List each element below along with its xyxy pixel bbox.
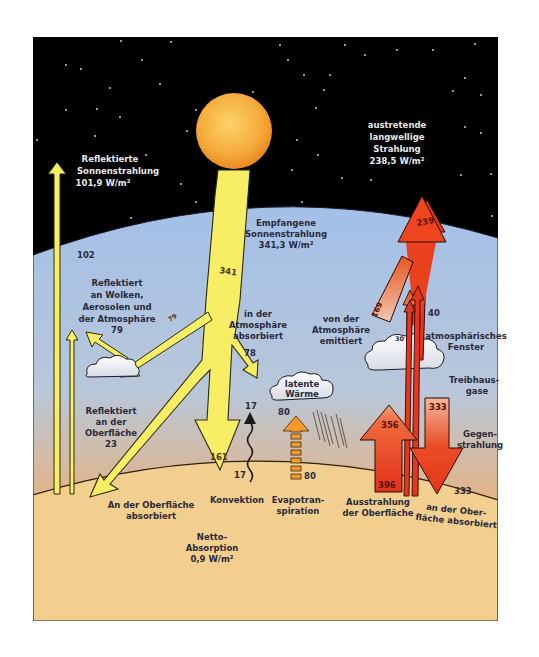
label-value: 238,5 W/m²: [370, 156, 425, 166]
label-text: An der Oberfläche: [108, 500, 195, 510]
label-text: absorbiert: [233, 331, 283, 341]
earth-energy-budget-diagram: Reflektierte Sonnenstrahlung 101,9 W/m² …: [0, 0, 539, 657]
label-text: Reflektierte: [82, 154, 139, 164]
label-text: Reflektiert: [91, 278, 142, 288]
label-text: emittiert: [320, 336, 363, 346]
label-value: 79: [111, 325, 123, 335]
label-value: 341,3 W/m²: [259, 240, 314, 250]
label-text: Fenster: [448, 342, 485, 352]
label-text: atmosphärisches: [425, 331, 507, 341]
flow-value-absorbed-atmosphere: 78: [244, 348, 256, 358]
label-text: absorbiert: [126, 511, 176, 521]
flow-value-back-radiation-top: 333: [429, 402, 447, 412]
flow-value-convection-top: 17: [245, 401, 257, 411]
label-latent-heat: latente Wärme: [285, 379, 320, 399]
label-text: Netto-: [197, 532, 228, 542]
flow-value-emitted-clouds: 30: [395, 335, 405, 343]
label-text: spiration: [277, 506, 320, 516]
sun-icon: [196, 93, 272, 169]
label-text: von der: [323, 314, 360, 324]
label-text: langwellige: [370, 132, 425, 142]
label-text: Oberfläche: [85, 428, 137, 438]
label-text: Sonnenstrahlung: [77, 166, 159, 176]
flow-value-window: 40: [428, 308, 440, 318]
flow-value-evap-bottom: 80: [304, 471, 316, 481]
label-text: der Oberfläche: [342, 508, 413, 518]
label-text: Empfangene: [256, 218, 316, 228]
flow-value-reflected-total: 102: [77, 250, 95, 260]
label-text: Gegen-: [463, 429, 498, 439]
flow-value-absorbed-surface: 161: [210, 452, 228, 462]
label-evapotranspiration: Evapotran- spiration: [272, 495, 325, 516]
label-text: Atmosphäre: [229, 320, 287, 330]
label-text: austretende: [368, 120, 427, 130]
label-text: Atmosphäre: [312, 325, 370, 335]
label-text: in der: [244, 309, 273, 319]
flow-value-evap-top: 80: [278, 407, 290, 417]
label-text: Reflektiert: [85, 406, 136, 416]
label-text: an der: [96, 417, 128, 427]
label-back-radiation: Gegen- strahlung: [457, 429, 503, 450]
label-text: der Atmosphäre: [78, 314, 155, 324]
label-value: 0,9 W/m²: [190, 554, 233, 564]
flow-value-back-radiation-bottom: 333: [454, 486, 472, 496]
label-text: Konvektion: [210, 495, 264, 505]
label-value: 23: [105, 439, 117, 449]
label-text: an Wolken,: [90, 290, 143, 300]
label-surface-radiation: Ausstrahlung der Oberfläche: [342, 497, 413, 518]
flow-value-surface-emission-bottom: 396: [378, 480, 396, 490]
label-value: 101,9 W/m²: [76, 178, 131, 188]
label-text: Strahlung: [373, 144, 420, 154]
label-text: Absorption: [186, 543, 239, 553]
label-text: Treibhaus-: [449, 375, 500, 385]
label-text: latente: [285, 379, 320, 389]
flow-value-surface-emission-top: 356: [381, 420, 399, 430]
label-text: Wärme: [285, 389, 319, 399]
label-text: Ausstrahlung: [346, 497, 410, 507]
label-convection: Konvektion: [210, 495, 264, 505]
label-text: Aerosolen und: [82, 302, 151, 312]
flow-value-convection-bottom: 17: [234, 470, 246, 480]
label-text: strahlung: [457, 440, 503, 450]
label-text: gase: [466, 386, 489, 396]
label-text: Evapotran-: [272, 495, 325, 505]
label-text: Sonnenstrahlung: [245, 229, 327, 239]
